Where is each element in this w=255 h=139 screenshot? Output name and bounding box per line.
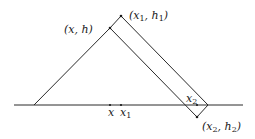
inner-diagonal bbox=[110, 28, 197, 117]
label-x2h2: (x2, h2) bbox=[202, 120, 241, 134]
bottom-short-edge bbox=[197, 105, 208, 117]
triangle-left-edge bbox=[34, 28, 110, 105]
point-xh bbox=[109, 27, 112, 30]
point-x2h2 bbox=[196, 116, 199, 119]
label-xh: (x, h) bbox=[64, 23, 93, 36]
label-x2-base: x2 bbox=[186, 92, 197, 106]
diagram-canvas: (x, h) (x1, h1) (x2, h2) x2 x x1 bbox=[0, 0, 255, 139]
label-tick-x: x bbox=[108, 106, 115, 119]
top-short-edge bbox=[110, 16, 121, 28]
outer-diagonal bbox=[121, 16, 208, 105]
point-x1h1 bbox=[120, 15, 123, 18]
label-tick-x1: x1 bbox=[120, 106, 131, 120]
label-x1h1: (x1, h1) bbox=[129, 9, 168, 23]
